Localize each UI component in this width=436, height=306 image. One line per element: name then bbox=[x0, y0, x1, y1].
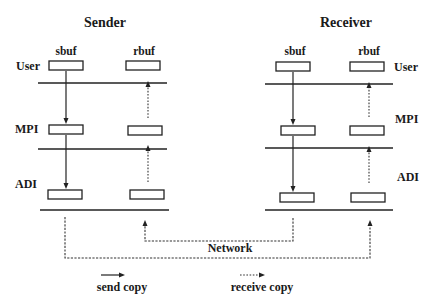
sender-mpi-sbuf-box bbox=[49, 125, 83, 134]
receiver-mpi-rbuf-box bbox=[350, 126, 384, 135]
receiver-sbuf-label: sbuf bbox=[284, 45, 305, 57]
sender-user-sbuf-box bbox=[49, 61, 83, 70]
sender-adi-sbuf-box bbox=[48, 190, 82, 199]
sender-user-rbuf-box bbox=[126, 61, 160, 70]
receiver-mpi-sbuf-box bbox=[281, 126, 315, 135]
receiver-adi-rbuf-box bbox=[351, 193, 385, 202]
sender-rbuf-label: rbuf bbox=[133, 45, 155, 57]
receiver-user-sbuf-box bbox=[276, 62, 310, 71]
receiver-adi-sbuf-box bbox=[280, 193, 314, 202]
receiver-side: Receiver sbuf rbuf User MPI ADI bbox=[265, 15, 419, 210]
legend: send copy receive copy bbox=[97, 275, 294, 294]
sender-adi-rbuf-box bbox=[130, 190, 164, 199]
sender-side: Sender sbuf rbuf User MPI ADI bbox=[15, 15, 169, 210]
sender-sbuf-label: sbuf bbox=[55, 45, 76, 57]
legend-receive-copy-label: receive copy bbox=[231, 280, 294, 294]
mpi-copy-diagram: Sender sbuf rbuf User MPI ADI Receiver s… bbox=[0, 0, 436, 306]
sender-layer-adi: ADI bbox=[15, 177, 37, 191]
network-label: Network bbox=[208, 241, 253, 255]
receiver-layer-user: User bbox=[394, 60, 419, 74]
sender-layer-mpi: MPI bbox=[15, 122, 39, 136]
receiver-title: Receiver bbox=[320, 15, 372, 30]
network: Network bbox=[65, 217, 370, 258]
sender-title: Sender bbox=[84, 15, 126, 30]
receiver-layer-adi: ADI bbox=[397, 170, 419, 184]
sender-layer-user: User bbox=[16, 59, 41, 73]
sender-mpi-rbuf-box bbox=[128, 126, 162, 135]
receiver-layer-mpi: MPI bbox=[395, 112, 419, 126]
network-path-receiver-to-sender bbox=[145, 218, 293, 241]
receiver-user-rbuf-box bbox=[350, 62, 384, 71]
legend-send-copy-label: send copy bbox=[97, 280, 147, 294]
receiver-rbuf-label: rbuf bbox=[358, 45, 380, 57]
